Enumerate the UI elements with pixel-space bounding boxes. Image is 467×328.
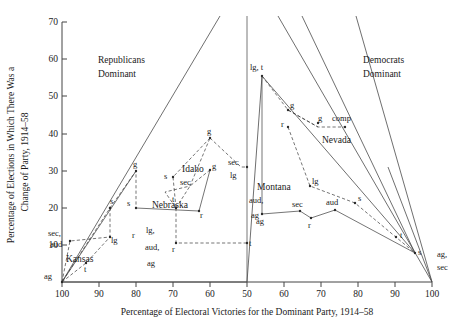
y-ticklabel-30: 30 <box>49 166 59 176</box>
montana-vertex-ag <box>261 213 263 215</box>
idaho-vertex-t2 <box>246 242 248 244</box>
nevada-lower-path <box>288 110 318 127</box>
idaho-label-s: s <box>164 171 167 181</box>
idaho-vertex-g2 <box>209 169 211 171</box>
nebraska-vertex-g <box>135 170 137 172</box>
montana-vertex-r <box>310 217 312 219</box>
nebraska-label-aud: aud, <box>145 242 159 252</box>
kansas-vertex-ag <box>61 281 63 283</box>
nebraska-state-label: Nebraska <box>152 200 189 210</box>
x-ticklabel-7: 70 <box>316 289 326 299</box>
idaho-label-r: r <box>200 210 203 220</box>
montana-label-ag: ag <box>256 216 265 226</box>
democrats-dominant-line2: Dominant <box>363 69 401 79</box>
nebraska-label-lg: lg, <box>146 225 155 235</box>
idaho-vertex-sec <box>246 166 248 168</box>
montana-vertex-sec <box>299 210 301 212</box>
x-ticklabel-2: 80 <box>131 289 141 299</box>
montana-label-lg: lg <box>312 176 319 186</box>
envelope-nevada-apex-right <box>262 76 415 253</box>
kansas-label-s: s <box>110 196 113 206</box>
y-ticklabel-60: 60 <box>49 54 59 64</box>
x-ticklabel-8: 80 <box>353 289 363 299</box>
x-ticklabel-5: 50 <box>242 289 252 299</box>
nevada-state-label: Nevada <box>322 135 352 145</box>
series-nebraska: g s r lg, aud, ag Nebraska <box>109 159 199 268</box>
nevada-vertex-comp <box>344 126 346 128</box>
idaho-label-r2: r <box>172 244 175 254</box>
envelope-democrat-outer <box>278 16 432 282</box>
montana-vertex-s <box>354 202 356 204</box>
idaho-label-g: g <box>207 126 212 136</box>
series-montana: ag sec r aud lg s s t Montana <box>256 76 421 257</box>
kansas-label-aud: aud <box>50 239 63 249</box>
montana-lg-path <box>288 127 415 253</box>
annotation-republicans-dominant: Republicans Dominant <box>98 55 145 79</box>
idaho-label-lg: lg <box>230 170 237 180</box>
montana-vertex-s2 <box>414 252 416 254</box>
kansas-label-ag: ag <box>44 271 53 281</box>
right-corner-label-sec: sec <box>437 262 448 272</box>
center-label-aud: aud, <box>249 195 263 205</box>
x-ticklabel-3: 70 <box>168 289 178 299</box>
republicans-dominant-line2: Dominant <box>98 69 136 79</box>
idaho-label-t2: t <box>249 238 252 248</box>
republicans-dominant-line1: Republicans <box>98 55 145 65</box>
montana-label-aud: aud <box>326 197 339 207</box>
y-axis-title-lower: Change of Party, 1914–58 <box>20 112 30 211</box>
x-axis-title: Percentage of Electoral Victories for th… <box>121 307 374 317</box>
x-ticklabel-10: 100 <box>425 289 440 299</box>
envelope-nevada-apex-left <box>247 76 262 282</box>
chart-svg: 70 60 50 40 30 20 10 100 90 80 70 60 50 … <box>0 0 467 328</box>
envelope-right-fan-1 <box>388 167 432 282</box>
montana-label-r: r <box>308 220 311 230</box>
kansas-label-sec: sec, <box>48 228 61 238</box>
montana-vertex-aud <box>334 209 336 211</box>
democrats-dominant-line1: Democrats <box>363 55 404 65</box>
y-ticklabel-20: 20 <box>49 203 59 213</box>
idaho-state-label: Idaho <box>182 164 204 174</box>
nebraska-path <box>110 171 136 208</box>
nebraska-label-s: s <box>127 198 130 208</box>
nevada-label-lgt: lg, t <box>250 62 264 72</box>
kansas-label-lg: lg <box>111 235 118 245</box>
x-ticklabel-1: 90 <box>94 289 104 299</box>
y-ticklabel-40: 40 <box>49 129 59 139</box>
kansas-label-t: t <box>84 264 87 274</box>
montana-vertex-lg <box>309 185 311 187</box>
montana-label-s: s <box>358 193 361 203</box>
y-axis-title-upper: Percentage of Elections in Which There W… <box>6 66 16 243</box>
nebraska-vertex-s <box>109 207 111 209</box>
montana-vertex-t <box>395 236 397 238</box>
idaho-vertex-r2 <box>175 242 177 244</box>
x-ticklabel-4: 60 <box>205 289 215 299</box>
idaho-label-sec: sec <box>180 177 191 187</box>
annotation-democrats-dominant: Democrats Dominant <box>363 55 404 79</box>
nevada-label-g2: g <box>318 113 323 123</box>
series-idaho: g s sec g lg t r r t sec aud, ag Idaho <box>164 126 263 254</box>
kansas-vertex-sec <box>69 240 71 242</box>
montana-state-label: Montana <box>257 182 292 192</box>
idaho-label-sec-top: sec <box>228 157 239 167</box>
idaho-label-g2: g <box>212 161 217 171</box>
idaho-r-connector <box>199 170 210 211</box>
x-ticklabel-0: 100 <box>55 289 70 299</box>
right-corner-label-ag: ag, <box>437 249 447 259</box>
x-ticklabel-6: 60 <box>279 289 289 299</box>
nevada-label-g: g <box>290 100 295 110</box>
nebraska-label-ag: ag <box>147 258 156 268</box>
nevada-label-comp: comp <box>332 113 351 123</box>
series-nevada: lg, t g r g comp Nevada <box>250 62 352 145</box>
nebraska-vertex-s2 <box>135 207 137 209</box>
y-ticklabel-50: 50 <box>49 91 59 101</box>
idaho-vertex-g <box>209 137 211 139</box>
nebraska-label-g: g <box>133 159 138 169</box>
y-ticklabel-70: 70 <box>49 17 59 27</box>
idaho-vertex-s <box>172 176 174 178</box>
nevada-label-r: r <box>281 119 284 129</box>
idaho-bottom-path <box>176 208 247 243</box>
montana-label-sec: sec <box>292 199 303 209</box>
chart-figure: 70 60 50 40 30 20 10 100 90 80 70 60 50 … <box>0 0 467 328</box>
envelope-right-fan-3 <box>302 16 415 253</box>
x-ticklabel-9: 90 <box>390 289 400 299</box>
